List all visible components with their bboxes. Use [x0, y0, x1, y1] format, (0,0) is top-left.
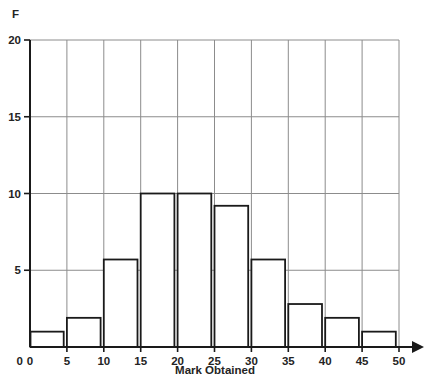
- histogram-bar: [288, 304, 322, 347]
- x-tick-label-10: 10: [97, 355, 110, 367]
- x-tick-label-0: 0: [27, 355, 33, 367]
- x-tick-label-5: 5: [64, 355, 71, 367]
- histogram-chart: 0510152025303540455005101520 F Mark Obta…: [0, 0, 429, 382]
- histogram-bar: [67, 318, 101, 347]
- y-tick-label-15: 15: [8, 111, 21, 123]
- bar-30-35: [251, 260, 285, 347]
- x-tick-label-50: 50: [393, 355, 406, 367]
- x-tick-label-35: 35: [282, 355, 295, 367]
- y-tick-label-0: 0: [17, 355, 23, 367]
- bar-10-15: [104, 260, 138, 347]
- histogram-bar: [31, 332, 64, 347]
- histogram-bar: [178, 194, 212, 348]
- bar-25-30: [215, 206, 249, 347]
- bar-20-25: [178, 194, 212, 348]
- y-tick-label-10: 10: [8, 188, 21, 200]
- bar-40-45: [325, 318, 359, 347]
- y-axis-title: F: [12, 8, 19, 20]
- chart-canvas: 0510152025303540455005101520 F Mark Obta…: [0, 0, 429, 382]
- bar-5-10: [67, 318, 101, 347]
- histogram-bar: [215, 206, 249, 347]
- histogram-bar: [104, 260, 138, 347]
- y-tick-label-20: 20: [8, 34, 21, 46]
- histogram-bar: [362, 332, 396, 347]
- bar-15-20: [141, 194, 175, 348]
- histogram-bar: [141, 194, 175, 348]
- bar-35-40: [288, 304, 322, 347]
- x-tick-label-40: 40: [319, 355, 332, 367]
- x-tick-label-45: 45: [356, 355, 369, 367]
- histogram-bar: [251, 260, 285, 347]
- histogram-bar: [325, 318, 359, 347]
- bar-0-5: [31, 332, 64, 347]
- y-tick-label-5: 5: [15, 264, 22, 276]
- bar-45-50: [362, 332, 396, 347]
- x-axis-title: Mark Obtained: [175, 364, 255, 376]
- x-tick-label-15: 15: [134, 355, 147, 367]
